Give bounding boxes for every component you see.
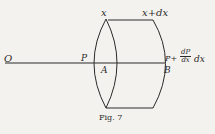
fraction-dp-dx: dP dx — [180, 49, 191, 64]
label-x: x — [101, 8, 107, 18]
label-origin: O — [4, 54, 12, 64]
label-p-plus: P+ — [165, 55, 177, 63]
label-dx-suffix: dx — [194, 55, 205, 64]
label-p: P — [81, 54, 87, 63]
figure-caption: Fig. 7 — [99, 114, 122, 122]
label-b: B — [164, 66, 171, 75]
label-a: A — [101, 66, 108, 75]
label-x-plus-dx: x+dx — [142, 8, 168, 18]
fraction-denominator: dx — [180, 57, 191, 64]
right-ellipse-arc — [153, 20, 166, 108]
